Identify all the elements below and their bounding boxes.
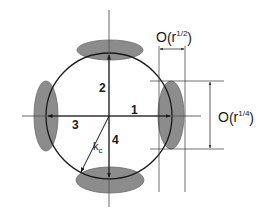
ellipse-bottom [76, 167, 144, 193]
height-label-exponent: 1/4 [238, 109, 250, 118]
arrow-label-2: 2 [99, 81, 106, 95]
arrow-label-3: 3 [72, 118, 79, 132]
width-label-exponent: 1/2 [176, 29, 188, 38]
radius-label: kc [93, 140, 103, 155]
arrow-label-1: 1 [131, 103, 138, 117]
width-dimension-label: O(r1/2) [156, 29, 192, 46]
radius-label-sub: c [99, 146, 103, 155]
arrow-label-4: 4 [112, 133, 119, 147]
height-label-close: ) [249, 110, 254, 126]
width-label-prefix: O [156, 29, 167, 45]
ellipse-right [158, 81, 184, 149]
height-label-prefix: O [218, 109, 229, 125]
width-label-close: ) [187, 30, 192, 46]
height-dimension-label: O(r1/4) [218, 109, 254, 126]
circle-diagram: 1 2 3 4 kc O(r1/2) O(r1/4) [0, 0, 264, 213]
